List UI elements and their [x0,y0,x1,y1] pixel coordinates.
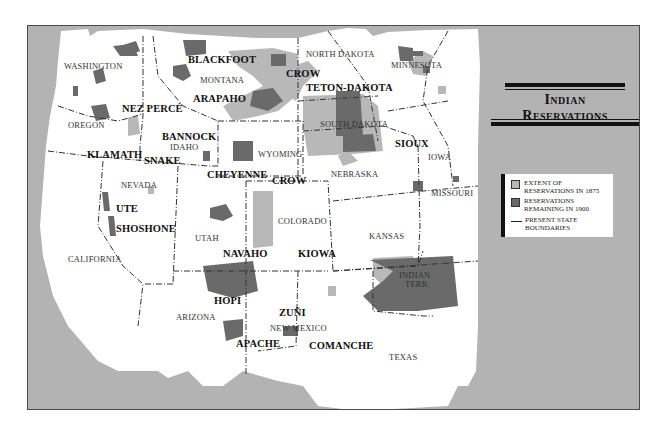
legend-item-boundaries: PRESENT STATEBOUNDARIES [511,216,577,232]
title-line-1: Indian [491,92,639,108]
state-label-idaho: IDAHO [170,143,198,152]
state-label-montana: MONTANA [200,76,244,85]
state-label-nebraska: NEBRASKA [331,170,378,179]
title-line-2: Reservations [491,108,639,124]
map-frame: WASHINGTON OREGON CALIFORNIA IDAHO NEVAD… [27,25,640,410]
tribe-label-cheyenne: CHEYENNE [207,170,267,181]
map-title: Indian Reservations [491,83,639,133]
tribe-label-crow-south: CROW [272,176,306,187]
state-label-north-dakota: NORTH DAKOTA [306,50,375,59]
state-label-washington: WASHINGTON [64,62,123,71]
legend-label-2a: RESERVATIONS [524,197,574,205]
state-label-california: CALIFORNIA [68,255,121,264]
tribe-label-navaho: NAVAHO [223,249,268,260]
tribe-label-bannock: BANNOCK [162,132,216,143]
state-label-wyoming: WYOMING [258,150,302,159]
tribe-label-kiowa: KIOWA [298,249,336,260]
legend-label-1b: RESERVATIONS IN 1875 [524,187,599,195]
tribe-label-teton-dakota: TETON-DAKOTA [306,83,393,94]
state-label-colorado: COLORADO [278,217,327,226]
swatch-light-icon [511,180,520,189]
tribe-label-sioux: SIOUX [395,139,429,150]
tribe-label-ute: UTE [116,204,138,215]
tribe-label-crow-north: CROW [286,69,320,80]
legend-label-3b: BOUNDARIES [525,224,570,232]
legend-item-remaining-1900: RESERVATIONSREMAINING IN 1900 [511,197,589,213]
tribe-label-comanche: COMANCHE [309,341,373,352]
state-label-south-dakota: SOUTH DAKOTA [320,120,388,129]
state-label-kansas: KANSAS [369,232,404,241]
tribe-label-blackfoot: BLACKFOOT [188,55,256,66]
state-label-iowa: IOWA [428,153,451,162]
tribe-label-arapaho: ARAPAHO [193,94,246,105]
tribe-label-hopi: HOPI [214,296,241,307]
swatch-dark-icon [511,198,520,207]
state-label-oregon: OREGON [68,121,105,130]
state-label-new-mexico: NEW MEXICO [270,324,327,333]
state-label-utah: UTAH [195,234,219,243]
legend-label-2b: REMAINING IN 1900 [524,205,589,213]
dash-line-icon [511,221,522,222]
tribe-label-nez-perce: NEZ PERCÉ [122,104,183,115]
state-label-missouri: MISSOURI [431,189,473,198]
legend-label-1a: EXTENT OF [524,179,562,187]
state-label-arizona: ARIZONA [176,313,216,322]
tribe-label-shoshone: SHOSHONE [116,224,176,235]
state-label-indian-terr-2: TERR. [405,280,430,289]
tribe-label-zuni: ZUÑI [279,308,306,319]
tribe-label-apache: APACHE [236,339,280,350]
legend-item-extent-1875: EXTENT OFRESERVATIONS IN 1875 [511,179,599,195]
legend-label-3a: PRESENT STATE [525,216,577,224]
map-legend: EXTENT OFRESERVATIONS IN 1875 RESERVATIO… [501,174,613,237]
tribe-label-klamath: KLAMATH [87,150,142,161]
state-label-minnesota: MINNESOTA [391,61,442,70]
state-label-texas: TEXAS [389,353,417,362]
state-label-nevada: NEVADA [121,181,157,190]
tribe-label-snake: SNAKE [144,156,181,167]
